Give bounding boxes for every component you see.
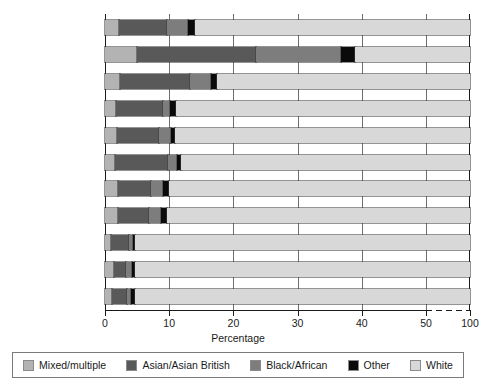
bar-segment[interactable] bbox=[119, 20, 167, 35]
stacked-bar[interactable] bbox=[105, 262, 470, 277]
bar-segment[interactable] bbox=[105, 20, 119, 35]
x-axis-line bbox=[105, 310, 426, 311]
bar-segment[interactable] bbox=[256, 47, 341, 62]
bar-segment[interactable] bbox=[105, 208, 118, 223]
bar-segment[interactable] bbox=[105, 181, 118, 196]
bar-segment[interactable] bbox=[118, 181, 151, 196]
bar-row bbox=[105, 101, 470, 116]
bar-row bbox=[105, 262, 470, 277]
bar-segment[interactable] bbox=[117, 128, 159, 143]
bar-segment[interactable] bbox=[105, 155, 115, 170]
bar-row bbox=[105, 20, 470, 35]
bar-segment[interactable] bbox=[118, 208, 149, 223]
bar-row bbox=[105, 235, 470, 250]
legend-item[interactable]: Mixed/multiple bbox=[23, 359, 106, 371]
x-tick-20 bbox=[233, 310, 234, 316]
plot-area bbox=[105, 14, 470, 310]
x-tick-label-40: 40 bbox=[356, 317, 368, 329]
x-tick-10 bbox=[169, 310, 170, 316]
bar-segment[interactable] bbox=[135, 289, 470, 304]
bar-segment[interactable] bbox=[151, 181, 163, 196]
stacked-bar[interactable] bbox=[105, 235, 470, 250]
legend-label: Mixed/multiple bbox=[39, 359, 106, 371]
bar-segment[interactable] bbox=[190, 74, 211, 89]
x-tick-label-30: 30 bbox=[292, 317, 304, 329]
legend-item[interactable]: White bbox=[410, 359, 453, 371]
x-axis-title: Percentage bbox=[0, 332, 476, 344]
x-tick-100 bbox=[470, 310, 471, 316]
stacked-bar[interactable] bbox=[105, 101, 470, 116]
bar-segment[interactable] bbox=[341, 47, 354, 62]
stacked-bar[interactable] bbox=[105, 20, 470, 35]
bar-segment[interactable] bbox=[159, 128, 171, 143]
bar-row bbox=[105, 128, 470, 143]
x-axis-break-dashed bbox=[426, 310, 470, 311]
x-tick-label-0: 0 bbox=[102, 317, 108, 329]
bar-segment[interactable] bbox=[105, 47, 137, 62]
x-tick-50 bbox=[426, 310, 427, 316]
x-tick-label-10: 10 bbox=[163, 317, 175, 329]
stacked-bar[interactable] bbox=[105, 128, 470, 143]
x-tick-label-100: 100 bbox=[461, 317, 479, 329]
stacked-bar[interactable] bbox=[105, 181, 470, 196]
bar-segment[interactable] bbox=[120, 74, 189, 89]
bar-segment[interactable] bbox=[355, 47, 470, 62]
bar-segment[interactable] bbox=[195, 20, 470, 35]
x-tick-label-50: 50 bbox=[420, 317, 432, 329]
bar-segment[interactable] bbox=[135, 262, 470, 277]
stacked-bar[interactable] bbox=[105, 155, 470, 170]
bar-segment[interactable] bbox=[115, 155, 168, 170]
legend-label: White bbox=[426, 359, 453, 371]
legend-item[interactable]: Other bbox=[348, 359, 390, 371]
bar-segment[interactable] bbox=[163, 101, 171, 116]
bar-row bbox=[105, 47, 470, 62]
bar-segment[interactable] bbox=[217, 74, 470, 89]
bar-segment[interactable] bbox=[168, 155, 177, 170]
bar-row bbox=[105, 74, 470, 89]
bar-segment[interactable] bbox=[167, 208, 470, 223]
legend-swatch bbox=[126, 360, 137, 371]
legend-swatch bbox=[410, 360, 421, 371]
bar-row bbox=[105, 155, 470, 170]
bar-row bbox=[105, 208, 470, 223]
x-tick-30 bbox=[298, 310, 299, 316]
bar-segment[interactable] bbox=[105, 289, 112, 304]
stacked-bar[interactable] bbox=[105, 74, 470, 89]
stacked-bar[interactable] bbox=[105, 47, 470, 62]
bar-segment[interactable] bbox=[105, 101, 116, 116]
stacked-bar[interactable] bbox=[105, 289, 470, 304]
bar-segment[interactable] bbox=[112, 289, 127, 304]
legend-item[interactable]: Black/African bbox=[250, 359, 327, 371]
stacked-bar[interactable] bbox=[105, 208, 470, 223]
legend-swatch bbox=[250, 360, 261, 371]
bar-segment[interactable] bbox=[149, 208, 162, 223]
legend-item[interactable]: Asian/Asian British bbox=[126, 359, 230, 371]
bar-segment[interactable] bbox=[135, 235, 470, 250]
bar-segment[interactable] bbox=[114, 262, 126, 277]
legend-label: Asian/Asian British bbox=[142, 359, 230, 371]
bar-segment[interactable] bbox=[167, 20, 188, 35]
bar-row bbox=[105, 289, 470, 304]
bar-segment[interactable] bbox=[111, 235, 130, 250]
bar-segment[interactable] bbox=[137, 47, 256, 62]
bar-row bbox=[105, 181, 470, 196]
bar-segment[interactable] bbox=[105, 262, 114, 277]
bar-segment[interactable] bbox=[116, 101, 163, 116]
x-tick-40 bbox=[362, 310, 363, 316]
bar-segment[interactable] bbox=[105, 128, 117, 143]
legend-swatch bbox=[348, 360, 359, 371]
legend-label: Other bbox=[364, 359, 390, 371]
chart-legend: Mixed/multipleAsian/Asian BritishBlack/A… bbox=[12, 352, 464, 378]
bar-segment[interactable] bbox=[105, 74, 120, 89]
legend-swatch bbox=[23, 360, 34, 371]
bar-segment[interactable] bbox=[169, 181, 470, 196]
bar-segment[interactable] bbox=[175, 128, 470, 143]
bar-segment[interactable] bbox=[181, 155, 470, 170]
x-tick-label-20: 20 bbox=[228, 317, 240, 329]
legend-label: Black/African bbox=[266, 359, 327, 371]
x-tick-0 bbox=[105, 310, 106, 316]
bar-segment[interactable] bbox=[176, 101, 470, 116]
